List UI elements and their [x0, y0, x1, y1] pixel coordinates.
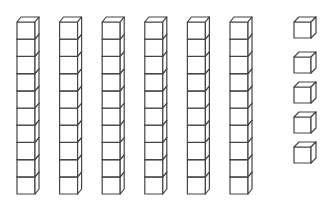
unit-cube — [294, 82, 316, 103]
tens-rod — [145, 17, 167, 194]
tens-rod — [17, 17, 39, 194]
tens-rod — [60, 17, 82, 194]
unit-cube — [294, 112, 316, 133]
unit-cube — [294, 142, 316, 163]
tens-rod — [187, 17, 209, 194]
tens-rod — [230, 17, 252, 194]
tens-rod — [102, 17, 124, 194]
unit-cube — [294, 17, 316, 38]
unit-cube — [294, 52, 316, 73]
base-ten-blocks-diagram — [0, 0, 324, 203]
